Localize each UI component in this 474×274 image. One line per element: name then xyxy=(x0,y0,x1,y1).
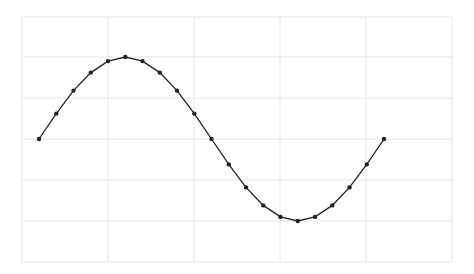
data-point xyxy=(330,203,334,207)
data-point xyxy=(89,70,93,74)
data-point xyxy=(123,55,127,59)
data-point xyxy=(296,219,300,223)
data-point xyxy=(347,185,351,189)
data-point xyxy=(106,59,110,63)
data-point xyxy=(209,137,213,141)
line-chart xyxy=(0,0,474,274)
data-point xyxy=(382,137,386,141)
data-point xyxy=(175,88,179,92)
data-point xyxy=(365,162,369,166)
data-point xyxy=(278,215,282,219)
data-point xyxy=(313,215,317,219)
data-point xyxy=(140,59,144,63)
data-point xyxy=(37,137,41,141)
grid-lines xyxy=(22,17,452,262)
data-point xyxy=(54,111,58,115)
data-point xyxy=(71,88,75,92)
data-point xyxy=(244,185,248,189)
data-point xyxy=(227,162,231,166)
data-point xyxy=(158,70,162,74)
data-point xyxy=(192,111,196,115)
data-point xyxy=(261,203,265,207)
